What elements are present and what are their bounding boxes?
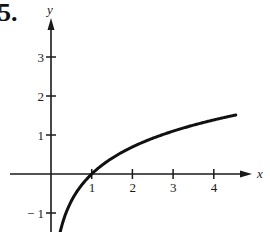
y-axis-label: y <box>45 2 53 17</box>
y-tick-label: 1 <box>38 128 45 143</box>
x-tick-label: 3 <box>170 180 177 195</box>
y-tick-label: 2 <box>38 89 45 104</box>
x-tick-label: 2 <box>129 180 136 195</box>
y-tick-label: 3 <box>38 50 45 65</box>
x-tick-label: 1 <box>89 180 96 195</box>
y-axis-arrow-icon <box>48 18 55 30</box>
x-axis-arrow-icon <box>240 171 252 178</box>
axis-ticks: 1234− 1123 <box>27 50 218 221</box>
x-axis-label: x <box>256 166 263 181</box>
y-tick-label: − 1 <box>27 206 44 221</box>
log-graph: y x 1234− 1123 <box>0 0 270 232</box>
x-tick-label: 4 <box>211 180 218 195</box>
